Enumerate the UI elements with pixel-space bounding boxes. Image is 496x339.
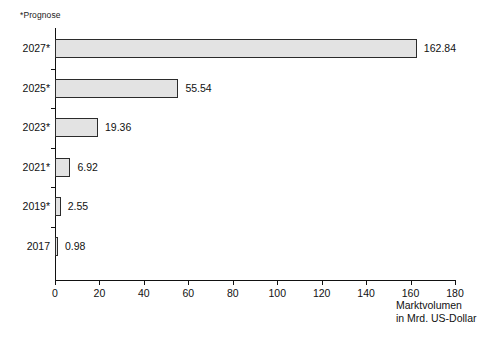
- x-axis-tick-label: 140: [357, 287, 375, 299]
- bar-value-label: 0.98: [65, 240, 85, 252]
- x-axis-tick: [99, 280, 100, 285]
- category-label: 2019*: [23, 200, 50, 212]
- y-axis-tick: [51, 69, 55, 70]
- x-axis-tick: [277, 280, 278, 285]
- x-axis-tick: [55, 280, 56, 285]
- x-axis-title-line2: in Mrd. US-Dollar: [396, 312, 477, 325]
- y-axis-tick: [51, 148, 55, 149]
- bar: [55, 158, 70, 177]
- bar: [55, 79, 178, 98]
- x-axis-tick-label: 0: [52, 287, 58, 299]
- x-axis-tick-label: 40: [138, 287, 150, 299]
- category-axis-labels: 2027*2025*2023*2021*2019*2017: [0, 28, 50, 280]
- x-axis-tick: [233, 280, 234, 285]
- bar-value-label: 6.92: [77, 161, 97, 173]
- x-axis-title-line1: Marktvolumen: [396, 299, 477, 312]
- x-axis-tick-label: 120: [313, 287, 331, 299]
- forecast-footnote: *Prognose: [20, 10, 61, 20]
- category-label: 2023*: [23, 121, 50, 133]
- bar: [55, 118, 98, 137]
- x-axis-tick-label: 60: [182, 287, 194, 299]
- category-label: 2017: [27, 240, 50, 252]
- x-axis-tick-label: 80: [227, 287, 239, 299]
- bar: [55, 237, 58, 256]
- bar-value-label: 162.84: [424, 42, 456, 54]
- y-axis-tick: [51, 227, 55, 228]
- x-axis-tick: [188, 280, 189, 285]
- bar: [55, 39, 417, 58]
- x-axis-tick: [411, 280, 412, 285]
- bar-value-label: 19.36: [105, 121, 131, 133]
- bar: [55, 197, 61, 216]
- x-axis-tick-label: 100: [268, 287, 286, 299]
- category-label: 2021*: [23, 161, 50, 173]
- bar-value-label: 55.54: [185, 82, 211, 94]
- plot-area: 162.8455.5419.366.922.550.98020406080100…: [55, 28, 455, 280]
- x-axis-title: Marktvolumen in Mrd. US-Dollar: [396, 299, 477, 325]
- category-label: 2027*: [23, 42, 50, 54]
- x-axis-line: [55, 280, 456, 281]
- y-axis-tick: [51, 108, 55, 109]
- category-label: 2025*: [23, 82, 50, 94]
- y-axis-tick: [51, 187, 55, 188]
- x-axis-tick-label: 160: [402, 287, 420, 299]
- x-axis-tick-label: 180: [446, 287, 464, 299]
- bar-chart: *Prognose 2027*2025*2023*2021*2019*2017 …: [0, 0, 496, 339]
- bar-value-label: 2.55: [68, 200, 88, 212]
- x-axis-tick: [322, 280, 323, 285]
- x-axis-tick: [144, 280, 145, 285]
- x-axis-tick-label: 20: [94, 287, 106, 299]
- x-axis-tick: [455, 280, 456, 285]
- x-axis-tick: [366, 280, 367, 285]
